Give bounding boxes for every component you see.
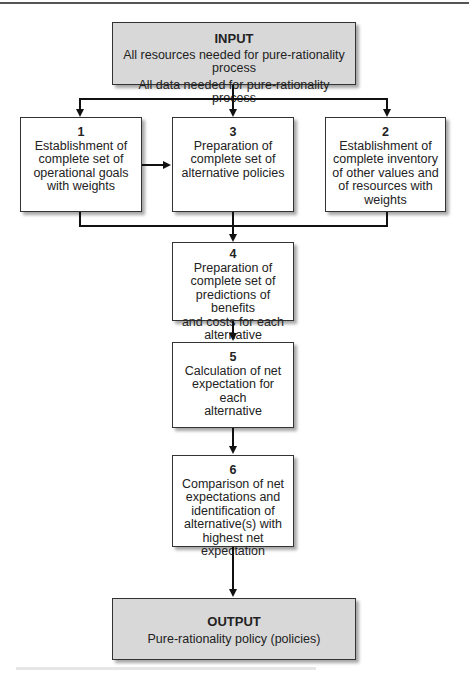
arrow-to-6-icon xyxy=(229,446,237,454)
step-3-number: 3 xyxy=(173,126,293,140)
arrow-to-1-icon xyxy=(76,109,84,117)
input-box: INPUT All resources needed for pure-rati… xyxy=(112,22,356,85)
step-4-number: 4 xyxy=(173,248,293,262)
arrow-to-3-icon xyxy=(229,109,237,117)
step-3-text: Preparation of complete set of alternati… xyxy=(173,140,293,181)
step-5-number: 5 xyxy=(173,351,293,365)
connector-6-to-output xyxy=(232,547,234,590)
step-2-box: 2 Establishment of complete inventory of… xyxy=(325,117,446,212)
top-rule xyxy=(0,2,469,4)
arrow-to-output-icon xyxy=(229,589,237,597)
step-2-text: Establishment of complete inventory of o… xyxy=(326,140,445,208)
connector-1-to-3 xyxy=(142,164,164,166)
arrow-to-2-icon xyxy=(383,109,391,117)
step-1-box: 1 Establishment of complete set of opera… xyxy=(20,117,142,212)
input-line-2: All data needed for pure-rationality pro… xyxy=(113,79,355,106)
step-1-number: 1 xyxy=(21,126,141,140)
step-3-box: 3 Preparation of complete set of alterna… xyxy=(172,117,294,212)
step-5-box: 5 Calculation of net expectation for eac… xyxy=(172,342,294,428)
step-1-text: Establishment of complete set of operati… xyxy=(21,140,141,194)
connector-input-down xyxy=(232,85,234,99)
input-line-1: All resources needed for pure-rationalit… xyxy=(113,49,355,76)
output-title: OUTPUT xyxy=(113,615,355,629)
connector-3-to-4 xyxy=(232,212,234,235)
input-title: INPUT xyxy=(113,32,355,46)
step-6-number: 6 xyxy=(173,464,293,478)
step-6-box: 6 Comparison of net expectations and ide… xyxy=(172,455,294,547)
arrow-1-to-3-icon xyxy=(163,161,171,169)
step-4-box: 4 Preparation of complete set of predict… xyxy=(172,242,294,321)
step-5-text: Calculation of net expectation for each … xyxy=(173,365,293,419)
output-box: OUTPUT Pure-rationality policy (policies… xyxy=(112,598,356,660)
step-2-number: 2 xyxy=(326,126,445,140)
output-line-1: Pure-rationality policy (policies) xyxy=(113,633,355,647)
arrow-to-5-icon xyxy=(229,333,237,341)
connector-5-to-6 xyxy=(232,428,234,447)
arrow-to-4-icon xyxy=(229,234,237,242)
faded-caption xyxy=(16,667,316,670)
